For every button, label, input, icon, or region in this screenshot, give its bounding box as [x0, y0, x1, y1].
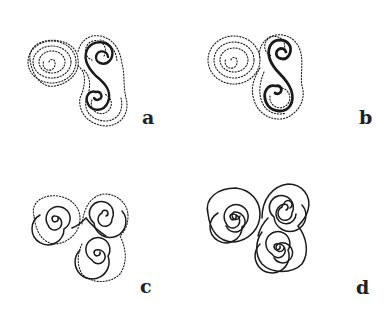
panel-label-a: a	[142, 108, 154, 127]
triple-spiral-figure-a	[0, 0, 196, 156]
panel-label-b: b	[359, 108, 372, 127]
triple-spiral-figure-b	[196, 0, 392, 156]
panel-label-c: c	[140, 277, 152, 296]
panel-label-d: d	[356, 278, 369, 297]
panel-a: a	[0, 0, 196, 156]
panel-c: c	[0, 156, 196, 312]
panel-b: b	[196, 0, 392, 156]
triple-spiral-figure-c	[0, 156, 196, 313]
panel-d: d	[196, 156, 392, 312]
